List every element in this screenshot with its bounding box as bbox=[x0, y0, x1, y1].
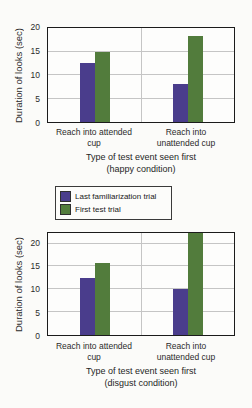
y-tick-label-5: 5 bbox=[0, 308, 40, 318]
plot-area-happy bbox=[47, 27, 235, 123]
y-tick-label-10: 10 bbox=[0, 284, 40, 294]
y-tick-label-15: 15 bbox=[0, 46, 40, 56]
legend-swatch-green-icon bbox=[60, 204, 71, 215]
bar-group bbox=[173, 233, 203, 335]
y-tick-label-5: 5 bbox=[0, 94, 40, 104]
bar-first-test-trial bbox=[188, 233, 203, 335]
legend-item-last-familiarization: Last familiarization trial bbox=[60, 190, 167, 202]
x-axis-condition-label: (happy condition) bbox=[35, 164, 247, 176]
legend-swatch-purple-icon bbox=[60, 191, 71, 202]
legend-label-last-familiarization: Last familiarization trial bbox=[75, 192, 156, 201]
y-tick-label-20: 20 bbox=[0, 22, 40, 32]
plot-area-disgust bbox=[47, 232, 235, 336]
y-tick-label-20: 20 bbox=[0, 238, 40, 248]
legend-item-first-test: First test trial bbox=[60, 203, 167, 215]
figure-duration-of-looks: Duration of looks (sec) 05101520 Reach i… bbox=[0, 0, 252, 408]
bar-first-test-trial bbox=[188, 36, 203, 122]
bar-group bbox=[80, 233, 110, 335]
bar-last-familiarization-trial bbox=[80, 278, 95, 335]
x-category-attended-happy: Reach into attended cup bbox=[52, 127, 136, 148]
y-axis-ticks-disgust: 05101520 bbox=[0, 232, 43, 336]
bar-group bbox=[80, 28, 110, 122]
x-category-attended-disgust: Reach into attended cup bbox=[52, 341, 136, 362]
bar-last-familiarization-trial bbox=[173, 289, 188, 335]
y-tick-label-0: 0 bbox=[0, 331, 40, 341]
legend: Last familiarization trial First test tr… bbox=[55, 186, 172, 220]
x-category-unattended-disgust: Reach into unattended cup bbox=[144, 341, 228, 362]
x-axis-condition-label: (disgust condition) bbox=[35, 378, 247, 390]
x-axis-title-disgust: Type of test event seen first (disgust c… bbox=[35, 366, 247, 389]
category-divider-line bbox=[141, 233, 142, 335]
y-tick-label-10: 10 bbox=[0, 70, 40, 80]
y-axis-ticks-happy: 05101520 bbox=[0, 27, 43, 123]
x-axis-title-happy: Type of test event seen first (happy con… bbox=[35, 152, 247, 175]
bar-last-familiarization-trial bbox=[173, 84, 188, 122]
x-category-unattended-happy: Reach into unattended cup bbox=[144, 127, 228, 148]
y-tick-label-15: 15 bbox=[0, 261, 40, 271]
x-axis-title-line1: Type of test event seen first bbox=[35, 366, 247, 378]
category-divider-line bbox=[141, 28, 142, 122]
legend-label-first-test: First test trial bbox=[75, 205, 121, 214]
x-axis-title-line1: Type of test event seen first bbox=[35, 152, 247, 164]
bar-first-test-trial bbox=[95, 263, 110, 335]
y-tick-label-0: 0 bbox=[0, 118, 40, 128]
bar-last-familiarization-trial bbox=[80, 63, 95, 122]
bar-first-test-trial bbox=[95, 52, 110, 123]
bar-group bbox=[173, 28, 203, 122]
